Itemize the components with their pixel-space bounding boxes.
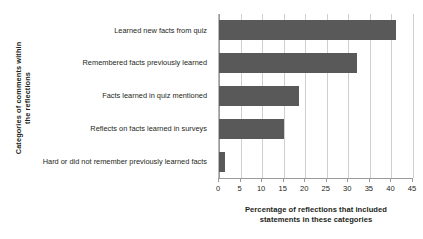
gridline	[413, 14, 414, 178]
category-label: Learned new facts from quiz	[114, 26, 212, 36]
plot-area	[218, 14, 413, 178]
x-tick-label: 30	[343, 184, 351, 193]
x-tick-label: 45	[408, 184, 416, 193]
y-axis-title-line-1: Categories of comments within	[14, 42, 23, 155]
x-tickmark	[326, 178, 327, 182]
x-tick-label: 40	[386, 184, 394, 193]
category-label-list: Learned new facts from quiz Remembered f…	[26, 14, 212, 178]
x-tick-label: 35	[365, 184, 373, 193]
category-label: Remembered facts previously learned	[83, 58, 212, 68]
x-tick-label: 5	[237, 184, 241, 193]
x-tickmark	[390, 178, 391, 182]
category-row: Reflects on facts learned in surveys	[26, 112, 212, 145]
bar	[219, 53, 357, 73]
bar	[219, 20, 396, 40]
x-tickmark	[412, 178, 413, 182]
x-tickmark	[304, 178, 305, 182]
bar-chart: Categories of comments within the reflec…	[0, 0, 423, 239]
x-tick-label: 15	[278, 184, 286, 193]
category-row: Facts learned in quiz mentioned	[26, 80, 212, 113]
bar-row	[219, 14, 413, 47]
category-row: Remembered facts previously learned	[26, 47, 212, 80]
x-tick-label: 20	[300, 184, 308, 193]
x-axis-tickmarks	[218, 178, 412, 183]
x-axis-title-line-1: Percentage of reflections that included	[245, 205, 387, 214]
x-axis-title: Percentage of reflections that included …	[218, 205, 414, 226]
bar-series	[219, 14, 413, 178]
category-label: Hard or did not remember previously lear…	[43, 157, 212, 167]
x-tick-label: 25	[322, 184, 330, 193]
x-tickmark	[283, 178, 284, 182]
bar-row	[219, 47, 413, 80]
category-row: Learned new facts from quiz	[26, 14, 212, 47]
bar-row	[219, 145, 413, 178]
category-label: Reflects on facts learned in surveys	[90, 124, 212, 134]
x-axis-tick-labels: 051015202530354045	[218, 184, 412, 196]
bar-row	[219, 112, 413, 145]
bar	[219, 152, 225, 172]
x-tick-label: 0	[216, 184, 220, 193]
x-tickmark	[347, 178, 348, 182]
x-tickmark	[261, 178, 262, 182]
bar	[219, 119, 284, 139]
bar-row	[219, 80, 413, 113]
category-label: Facts learned in quiz mentioned	[102, 91, 212, 101]
x-tickmark	[218, 178, 219, 182]
bar	[219, 86, 299, 106]
x-tick-label: 10	[257, 184, 265, 193]
x-axis-title-line-2: statements in these categories	[260, 215, 373, 224]
x-tickmark	[369, 178, 370, 182]
x-tickmark	[240, 178, 241, 182]
category-row: Hard or did not remember previously lear…	[26, 145, 212, 178]
